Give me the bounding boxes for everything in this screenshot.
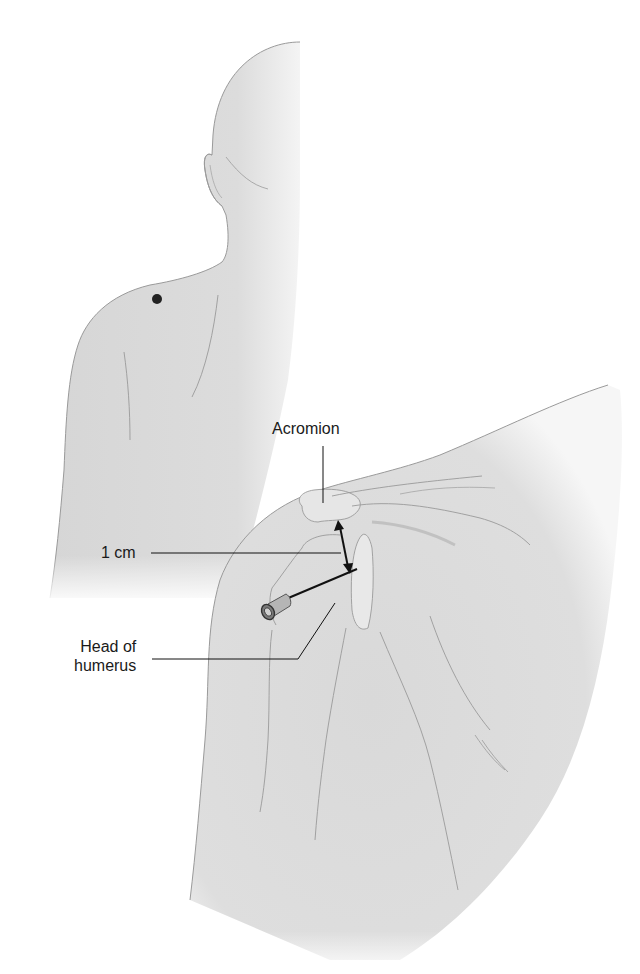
head-of-humerus-line2: humerus	[74, 656, 136, 675]
head-of-humerus-line1: Head of	[74, 637, 136, 656]
acromion-label: Acromion	[272, 419, 340, 438]
distance-label: 1 cm	[101, 543, 136, 562]
shoulder-injection-illustration	[0, 0, 640, 974]
injection-site-marker	[152, 294, 162, 304]
head-of-humerus-label: Head of humerus	[74, 637, 136, 675]
